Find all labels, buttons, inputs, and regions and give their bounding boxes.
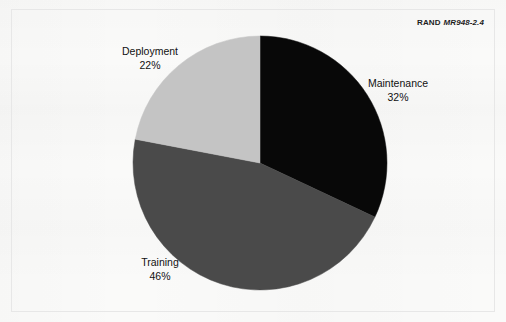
slice-label-maintenance-value: 32% [345,90,451,104]
slice-label-maintenance-name: Maintenance [368,77,428,89]
slice-label-deployment-name: Deployment [122,45,178,57]
pie-chart-svg [0,0,506,322]
pie-chart [0,0,506,322]
pie-slice-group [133,36,387,290]
slice-label-deployment-value: 22% [97,58,203,72]
slice-label-training-value: 46% [112,269,208,283]
slice-label-training: Training 46% [112,255,208,283]
slice-label-training-name: Training [141,256,179,268]
slice-label-deployment: Deployment 22% [97,44,203,72]
slice-label-maintenance: Maintenance 32% [345,76,451,104]
figure-canvas: RANDMR948-2.4 Deployment 22% Maintenance… [0,0,506,322]
